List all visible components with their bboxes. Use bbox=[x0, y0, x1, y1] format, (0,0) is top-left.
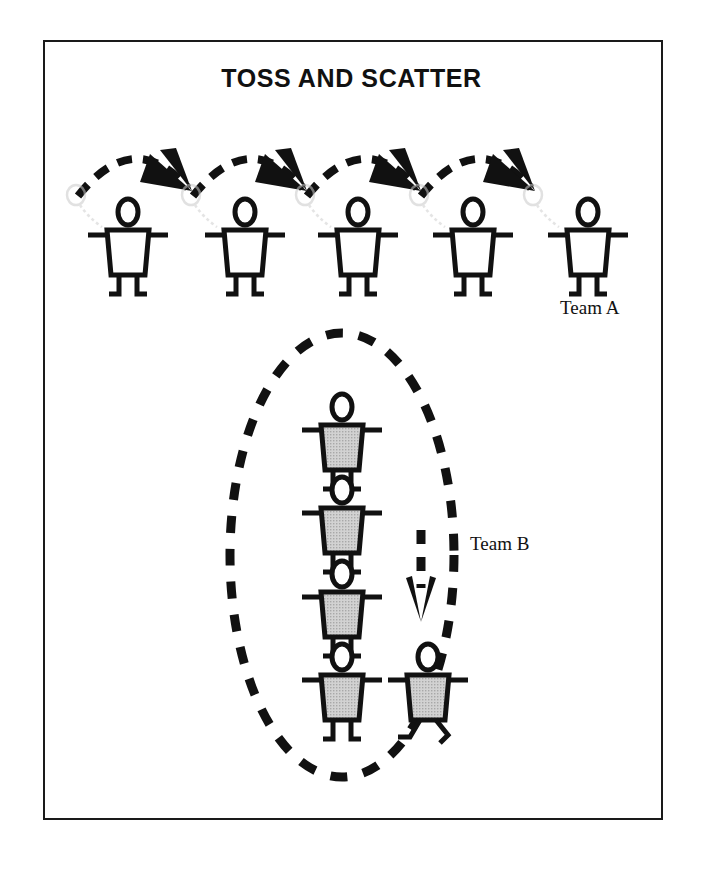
stick-figure-team-b bbox=[302, 644, 382, 739]
toss-trail-group bbox=[67, 185, 559, 227]
team-a-figure-group bbox=[88, 199, 628, 294]
toss-trail bbox=[67, 185, 102, 227]
toss-trail bbox=[182, 185, 217, 227]
stick-figure-team-a bbox=[88, 199, 168, 294]
toss-trail bbox=[524, 185, 559, 227]
stick-figure-team-a bbox=[433, 199, 513, 294]
diagram-artwork bbox=[0, 0, 703, 871]
team-a-label: Team A bbox=[560, 297, 619, 319]
stick-figure-team-a bbox=[205, 199, 285, 294]
toss-arc-3 bbox=[307, 148, 421, 196]
stick-figure-team-a bbox=[548, 199, 628, 294]
toss-trail bbox=[410, 185, 445, 227]
team-a-arc-group bbox=[78, 148, 535, 196]
team-b-label: Team B bbox=[470, 533, 529, 555]
stick-figure-team-a bbox=[318, 199, 398, 294]
diagram-page: TOSS AND SCATTER bbox=[0, 0, 703, 871]
toss-arc-2 bbox=[193, 148, 307, 196]
stick-figure-team-b bbox=[302, 477, 382, 572]
team-b-exit-arrow bbox=[406, 530, 436, 622]
toss-trail bbox=[296, 185, 331, 227]
toss-arc-4 bbox=[421, 148, 535, 196]
toss-arc-1 bbox=[78, 148, 192, 196]
stick-figure-team-b-running bbox=[388, 644, 468, 743]
